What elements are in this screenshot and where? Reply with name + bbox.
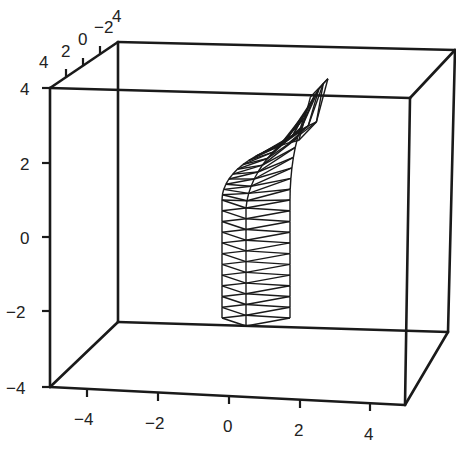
- tube-wireframe: [222, 79, 328, 326]
- x-tick-label: −2: [145, 414, 164, 433]
- z-tick-label: 4: [20, 80, 29, 99]
- box-edge-bottom-left: [50, 322, 118, 387]
- box-front-top: [50, 88, 410, 98]
- z-tick-label: 0: [20, 229, 29, 248]
- box-edge-bottom-right: [405, 332, 448, 405]
- x-tick-label: −4: [74, 410, 93, 429]
- box-edge-top-right: [410, 50, 455, 98]
- x-tick-label: 0: [223, 417, 232, 436]
- y-tick-label: 0: [78, 30, 87, 49]
- y-tick-label: 2: [61, 42, 70, 61]
- box-back-bottom: [118, 322, 448, 332]
- 3d-plot: 4 2 0 −2 −4 −4 −2 0 2 4 4 2 0 −2 4: [0, 0, 456, 460]
- z-tick-label: 2: [20, 155, 29, 174]
- x-tick-label: 2: [294, 421, 303, 440]
- x-tick-label: 4: [364, 425, 373, 444]
- y-tick-label: −2: [94, 18, 113, 37]
- y-tick-label: 4: [112, 7, 121, 26]
- z-tick-label: −2: [6, 303, 25, 322]
- bounding-box: [50, 42, 455, 405]
- box-front-right: [405, 98, 410, 405]
- tick-labels: 4 2 0 −2 −4 −4 −2 0 2 4 4 2 0 −2 4: [6, 7, 373, 444]
- y-tick-label: 4: [39, 53, 48, 72]
- box-back-top: [118, 42, 455, 50]
- box-back-right: [448, 50, 455, 332]
- z-tick-label: −4: [6, 379, 25, 398]
- box-front-bottom: [50, 387, 405, 405]
